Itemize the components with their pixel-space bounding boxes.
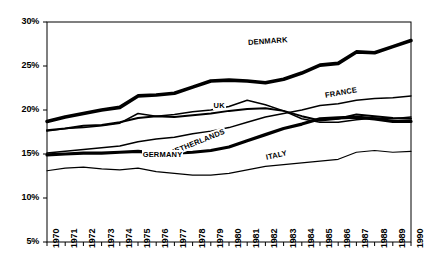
x-tick-label: 1984 bbox=[306, 229, 316, 248]
x-tick-label: 1972 bbox=[87, 229, 97, 248]
series-lines bbox=[47, 40, 411, 175]
series-label-germany: GERMANY bbox=[142, 150, 184, 159]
x-tick-label: 1978 bbox=[197, 229, 207, 248]
series-line-germany bbox=[47, 117, 411, 155]
x-tick-label: 1986 bbox=[342, 229, 352, 248]
x-tick-label: 1977 bbox=[178, 229, 188, 248]
x-tick-label: 1988 bbox=[379, 229, 389, 248]
series-label-uk: UK bbox=[213, 101, 226, 110]
x-tick-label: 1981 bbox=[251, 229, 261, 248]
line-chart: 30%25%20%15%10%5% 1970197119721973197419… bbox=[0, 0, 428, 275]
y-tick-label: 20% bbox=[0, 104, 39, 114]
plot-frame bbox=[47, 22, 411, 242]
x-tick-label: 1973 bbox=[106, 229, 116, 248]
x-tick-label: 1987 bbox=[360, 229, 370, 248]
x-tick-label: 1982 bbox=[269, 229, 279, 248]
x-tick-label: 1983 bbox=[288, 229, 298, 248]
x-tick-label: 1974 bbox=[124, 229, 134, 248]
x-tick-label: 1980 bbox=[233, 229, 243, 248]
x-tick-label: 1989 bbox=[397, 229, 407, 248]
y-tick-label: 15% bbox=[0, 148, 39, 158]
y-axis-ticks bbox=[43, 22, 47, 242]
x-tick-label: 1990 bbox=[415, 229, 425, 248]
y-tick-label: 25% bbox=[0, 60, 39, 70]
y-tick-label: 5% bbox=[0, 236, 39, 246]
plot-border bbox=[47, 22, 411, 242]
y-tick-label: 30% bbox=[0, 16, 39, 26]
x-tick-label: 1970 bbox=[51, 229, 61, 248]
x-tick-label: 1985 bbox=[324, 229, 334, 248]
x-tick-label: 1976 bbox=[160, 229, 170, 248]
x-tick-label: 1975 bbox=[142, 229, 152, 248]
x-tick-label: 1971 bbox=[69, 229, 79, 248]
x-tick-label: 1979 bbox=[215, 229, 225, 248]
series-line-denmark bbox=[47, 40, 411, 121]
x-axis-ticks bbox=[47, 242, 411, 246]
y-tick-label: 10% bbox=[0, 192, 39, 202]
